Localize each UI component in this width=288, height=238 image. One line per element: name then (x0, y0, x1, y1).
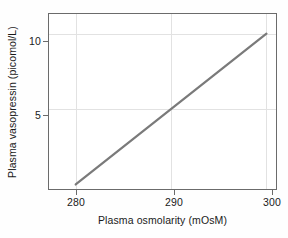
ytick-mark-5 (43, 115, 48, 116)
xtick-mark-280 (76, 190, 77, 195)
data-series-line (49, 14, 276, 189)
ytick-mark-10 (43, 41, 48, 42)
xtick-label-290: 290 (165, 196, 183, 208)
ytick-label-5: 5 (35, 109, 41, 121)
xtick-mark-300 (272, 190, 273, 195)
chart-figure: 280 290 300 10 5 Plasma osmolarity (mOsM… (0, 0, 288, 238)
y-axis-title-wrapper: Plasma vasopressin (picomol/L) (4, 13, 20, 190)
xtick-label-300: 300 (263, 196, 281, 208)
xtick-label-280: 280 (67, 196, 85, 208)
ytick-label-10: 10 (29, 35, 41, 47)
xtick-mark-290 (174, 190, 175, 195)
x-axis-title: Plasma osmolarity (mOsM) (48, 214, 277, 226)
plot-inner (49, 14, 276, 189)
y-axis-title: Plasma vasopressin (picomol/L) (6, 26, 18, 178)
plot-area (48, 13, 277, 190)
